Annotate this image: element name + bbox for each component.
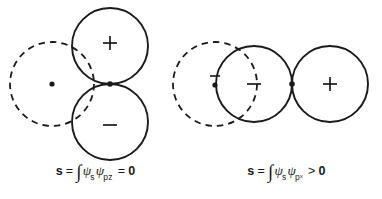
left-caption-symbol: s [56,164,63,178]
left-caption-relation: = [118,164,126,178]
left-caption-psi-s-subscript: s [90,172,94,182]
right-p-nucleus-dot [289,81,295,87]
left-p-nucleus-dot [107,81,113,87]
left-plus-sign [103,36,117,50]
right-panel-caption: s=∫ψsψpˣ>0 [191,163,382,180]
right-panel-graphic [173,42,368,126]
right-plus-sign [323,77,337,91]
right-caption-value: 0 [318,164,325,178]
right-caption-relation: > [308,164,316,178]
right-caption-symbol: s [247,164,254,178]
right-caption-psi-p-subscript: pˣ [295,172,303,182]
left-p-lobe-negative [72,84,148,160]
right-caption-psi-s-subscript: s [282,172,286,182]
right-caption-integral-sign: ∫ [268,165,273,178]
right-caption-equals: = [258,164,266,178]
left-panel-graphic [10,8,148,160]
left-caption-integral-sign: ∫ [76,165,81,178]
left-panel-caption: s=∫ψsψpᴢ=0 [0,163,191,180]
left-caption-psi-p-subscript: pᴢ [103,172,112,182]
figure-container: s=∫ψsψpᴢ=0 s=∫ψsψpˣ>0 [0,0,382,199]
left-caption-value: 0 [128,164,135,178]
left-caption-equals: = [66,164,74,178]
left-s-nucleus-dot [49,81,54,86]
